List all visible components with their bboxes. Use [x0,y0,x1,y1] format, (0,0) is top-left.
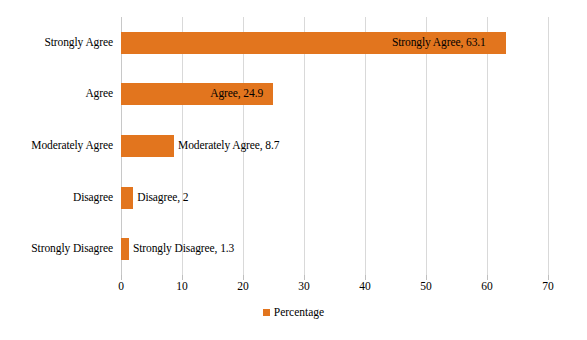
x-axis: 010203040506070 [121,275,548,299]
bar-row: Disagree, 2 [121,172,548,224]
bar-row: Agree, 24.9 [121,69,548,121]
x-tick-label: 70 [542,281,554,293]
x-tick-label: 20 [237,281,249,293]
category-axis-slot: Strongly Agree [0,17,113,69]
category-axis-label: Disagree [73,192,113,204]
bar-value-label: Strongly Disagree, 1.3 [133,243,234,255]
bar[interactable] [121,238,129,260]
x-tick-label: 40 [359,281,371,293]
gridline-70 [548,17,549,275]
category-axis-slot: Moderately Agree [0,120,113,172]
category-axis-slot: Disagree [0,172,113,224]
chart-legend: Percentage [0,307,587,319]
category-axis-label: Strongly Agree [44,37,113,49]
bar-value-label: Strongly Agree, 63.1 [392,37,486,49]
x-tick-label: 0 [118,281,124,293]
category-axis-label: Strongly Disagree [31,243,113,255]
legend-swatch-icon [263,309,270,316]
category-axis-label: Moderately Agree [31,140,113,152]
bar[interactable] [121,187,133,209]
x-tick-label: 50 [420,281,432,293]
bar-value-label: Agree, 24.9 [210,89,263,101]
bar-row: Strongly Agree, 63.1 [121,17,548,69]
x-tick-label: 10 [176,281,188,293]
bar-value-label: Moderately Agree, 8.7 [178,140,279,152]
plot-area: Strongly Agree, 63.1Agree, 24.9Moderatel… [121,17,548,275]
bar-row: Strongly Disagree, 1.3 [121,223,548,275]
bar-row: Moderately Agree, 8.7 [121,120,548,172]
category-axis-slot: Strongly Disagree [0,223,113,275]
x-tick-label: 60 [481,281,493,293]
category-axis-label: Agree [85,89,113,101]
x-tick-label: 30 [298,281,310,293]
legend-label: Percentage [274,307,324,319]
category-axis: Strongly AgreeAgreeModerately AgreeDisag… [0,17,113,275]
bar-value-label: Disagree, 2 [137,192,188,204]
category-axis-slot: Agree [0,69,113,121]
legend-item-percentage: Percentage [263,307,324,319]
bar-chart: Strongly AgreeAgreeModerately AgreeDisag… [0,0,587,340]
bar[interactable] [121,135,174,157]
